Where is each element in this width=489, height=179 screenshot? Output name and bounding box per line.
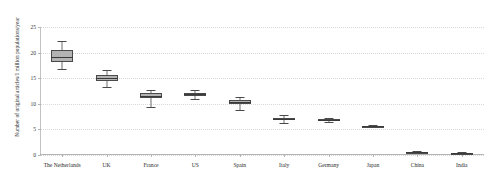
x-tick-label: China [411,162,424,168]
y-tick-mark [38,155,41,156]
lower-whisker-cap [191,99,200,100]
upper-whisker-cap [235,97,244,98]
median-line [184,94,206,95]
plot-area: 0510152025 The NetherlandsUKFranceUSSpai… [40,27,484,155]
median-line [273,119,295,120]
x-tick-label: Germany [318,162,339,168]
upper-whisker-cap [102,70,111,71]
x-tick-label: US [192,162,199,168]
y-tick-mark [38,104,41,105]
lower-whisker [62,62,63,69]
x-tick-label: Italy [279,162,289,168]
x-tick-label: France [143,162,158,168]
median-line [140,96,162,97]
y-tick-label: 15 [12,75,36,81]
box-plot-item [229,27,251,155]
median-line [406,152,428,153]
upper-whisker-cap [191,90,200,91]
box-plot-item [406,27,428,155]
y-tick-mark [38,53,41,54]
box-plot-item [184,27,206,155]
lower-whisker [151,98,152,108]
y-tick-mark [38,129,41,130]
y-tick-mark [38,78,41,79]
box-plot-item [362,27,384,155]
y-axis-line [40,27,41,155]
lower-whisker-cap [102,87,111,88]
median-line [451,153,473,154]
y-tick-mark [38,27,41,28]
upper-whisker [62,41,63,50]
median-line [229,102,251,103]
y-tick-label: 10 [12,101,36,107]
lower-whisker-cap [235,110,244,111]
median-line [96,78,118,79]
box-plot-item [140,27,162,155]
upper-whisker-cap [58,41,67,42]
lower-whisker-cap [58,69,67,70]
lower-whisker-cap [324,122,333,123]
median-line [362,126,384,127]
median-line [318,120,340,121]
x-tick-label: The Netherlands [44,162,81,168]
lower-whisker-cap [147,107,156,108]
box-plot-chart: Number of original articles/1 million po… [0,0,489,179]
y-tick-label: 20 [12,50,36,56]
box-plot-item [273,27,295,155]
y-tick-label: 5 [12,126,36,132]
box-iqr [51,50,73,62]
box-plot-item [451,27,473,155]
x-tick-label: Japan [367,162,380,168]
y-tick-label: 25 [12,24,36,30]
upper-whisker-cap [147,90,156,91]
x-tick-label: Spain [233,162,246,168]
box-plot-item [318,27,340,155]
lower-whisker-cap [280,123,289,124]
median-line [51,57,73,58]
box-plot-item [96,27,118,155]
upper-whisker-cap [280,115,289,116]
box-plot-item [51,27,73,155]
y-tick-label: 0 [12,152,36,158]
x-tick-label: UK [103,162,111,168]
x-tick-label: India [456,162,468,168]
